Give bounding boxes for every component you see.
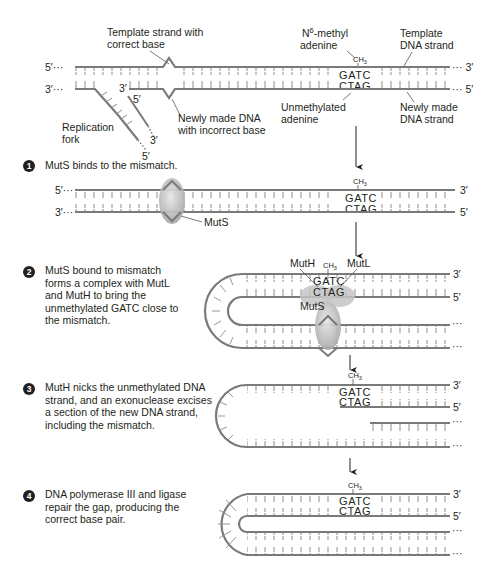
step-3-text: MutH nicks the unmethylated DNA strand, … bbox=[45, 381, 215, 431]
step-4-diagram: CH3 GATC CTAG 3′ 5′ ··· ··· bbox=[218, 481, 463, 559]
outer-strand bbox=[222, 494, 450, 555]
end-3: 3′··· bbox=[55, 206, 73, 218]
end-5-top: 5′··· bbox=[45, 61, 63, 73]
label-new-incorrect-2: with incorrect base bbox=[177, 124, 266, 136]
ch3-label: CH3 bbox=[353, 177, 367, 187]
leader-line bbox=[343, 93, 351, 100]
ch3-label: CH3 bbox=[323, 261, 337, 271]
leader-line bbox=[404, 52, 412, 66]
label-template-correct-2: correct base bbox=[107, 38, 165, 50]
label-muts: MutS bbox=[300, 300, 325, 312]
label-replication-fork-1: Replication bbox=[62, 121, 114, 133]
seq-ctag: CTAG bbox=[345, 203, 377, 215]
step-4-text: DNA polymerase III and ligase repair the… bbox=[45, 488, 205, 526]
step-1-badge: 1 bbox=[23, 160, 35, 172]
label-muth: MutH bbox=[290, 257, 315, 269]
template-strand bbox=[75, 58, 450, 67]
seq-ctag: CTAG bbox=[313, 286, 345, 298]
step-3-diagram: CH3 GATC CTAG 3′ 5′ ··· ··· bbox=[216, 371, 463, 472]
label-adenine: adenine bbox=[300, 39, 338, 51]
seq-ctag: CTAG bbox=[339, 396, 371, 408]
fork-5: 5′ bbox=[133, 93, 141, 105]
label-unmethylated-1: Unmethylated bbox=[281, 101, 346, 113]
muts-protein bbox=[159, 178, 185, 224]
step-2-badge: 2 bbox=[23, 266, 35, 278]
step-1-text: MutS binds to the mismatch. bbox=[45, 159, 225, 172]
label-muts: MutS bbox=[204, 216, 229, 228]
end-3-top-right: ··· 3′ bbox=[452, 61, 473, 73]
dots: ··· bbox=[452, 340, 463, 352]
end-5-right: 5′ bbox=[453, 510, 461, 522]
label-template-correct-1: Template strand with bbox=[107, 26, 203, 38]
dots: ··· bbox=[452, 439, 463, 451]
ch3-label: CH3 bbox=[348, 481, 362, 491]
end-3-right: 3′ bbox=[453, 488, 461, 500]
dots: ··· bbox=[452, 317, 463, 329]
dots: ··· bbox=[452, 415, 463, 427]
step-3-badge: 3 bbox=[23, 383, 35, 395]
ch3-label: CH3 bbox=[353, 55, 367, 65]
end-5-right: 5′ bbox=[460, 206, 468, 218]
step-2-diagram: CH3 GATC CTAG MutH MutL MutS 3′ 5′ ··· ·… bbox=[205, 257, 463, 370]
label-unmethylated-2: adenine bbox=[281, 113, 319, 125]
fork-3: 3′ bbox=[119, 82, 127, 94]
label-replication-fork-2: fork bbox=[62, 133, 80, 145]
seq-ctag: CTAG bbox=[339, 80, 371, 92]
label-template-dna-1: Template bbox=[400, 27, 443, 39]
outer-strand bbox=[216, 385, 450, 447]
seq-ctag: CTAG bbox=[339, 505, 371, 517]
dots: ··· bbox=[452, 547, 463, 559]
end-5: 5′··· bbox=[55, 184, 73, 196]
label-new-dna-2: DNA strand bbox=[400, 113, 454, 125]
new-strand bbox=[129, 89, 450, 98]
end-5-bottom-right: ··· 5′ bbox=[452, 83, 473, 95]
end-3-right: 3′ bbox=[460, 184, 468, 196]
label-mutl: MutL bbox=[347, 257, 371, 269]
fork-tail-3: 3′ bbox=[150, 134, 158, 146]
inner-strand bbox=[239, 516, 450, 532]
end-5-right: 5′ bbox=[453, 291, 461, 303]
dots: ··· bbox=[452, 524, 463, 536]
step-1-diagram: CH3 5′··· 3′ GATC CTAG 3′··· 5′ MutS bbox=[55, 177, 468, 256]
end-3-bottom: 3′··· bbox=[45, 83, 63, 95]
end-3-right: 3′ bbox=[453, 379, 461, 391]
top-panel: Template strand with correct base N6-met… bbox=[45, 26, 473, 167]
ch3-label: CH3 bbox=[348, 371, 362, 381]
label-new-incorrect-1: Newly made DNA bbox=[178, 112, 261, 124]
step-2-text: MutS bound to mismatch forms a complex w… bbox=[45, 264, 185, 327]
label-n6-methyl: N6-methyl bbox=[302, 26, 348, 39]
end-3-right: 3′ bbox=[453, 268, 461, 280]
step-4-badge: 4 bbox=[23, 490, 35, 502]
label-new-dna-1: Newly made bbox=[400, 101, 458, 113]
end-5-right: 5′ bbox=[453, 401, 461, 413]
label-template-dna-2: DNA strand bbox=[400, 39, 454, 51]
